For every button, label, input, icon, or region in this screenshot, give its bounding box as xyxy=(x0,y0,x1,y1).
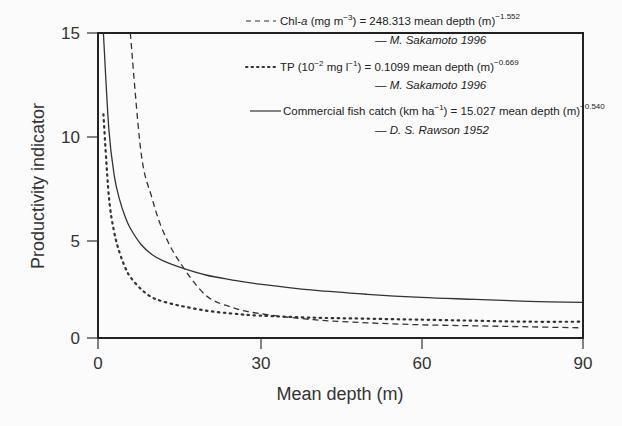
x-tick-label: 0 xyxy=(93,354,102,373)
y-tick-label: 0 xyxy=(71,329,80,348)
legend: Chl-a (mg m−3) = 248.313 mean depth (m)−… xyxy=(246,12,605,136)
series-layer xyxy=(103,33,583,328)
y-axis-label: Productivity indicator xyxy=(28,103,48,269)
legend-tp-source: — M. Sakamoto 1996 xyxy=(374,79,487,91)
legend-fish-source: — D. S. Rawson 1952 xyxy=(374,124,489,136)
y-axis xyxy=(87,33,98,338)
y-tick-label: 15 xyxy=(61,24,80,43)
x-tick-label: 60 xyxy=(413,354,432,373)
legend-chl-label: Chl-a (mg m−3) = 248.313 mean depth (m)−… xyxy=(280,12,521,27)
series-line-solid xyxy=(103,33,583,302)
series-line-dotted xyxy=(103,114,583,321)
y-tick-label: 5 xyxy=(71,232,80,251)
x-tick-label: 90 xyxy=(574,354,593,373)
x-axis xyxy=(98,338,583,349)
x-axis-label: Mean depth (m) xyxy=(276,384,403,404)
legend-chl-source: — M. Sakamoto 1996 xyxy=(374,34,487,46)
legend-fish-label: Commercial fish catch (km ha−1) = 15.027… xyxy=(283,102,605,117)
legend-tp-label: TP (10−2 mg l−1) = 0.1099 mean depth (m)… xyxy=(280,58,519,73)
chart: 15 10 5 0 0 30 60 90 Mean depth (m) Prod… xyxy=(0,0,622,426)
x-tick-label: 30 xyxy=(252,354,271,373)
y-tick-label: 10 xyxy=(61,128,80,147)
series-line-dashed xyxy=(130,33,583,328)
